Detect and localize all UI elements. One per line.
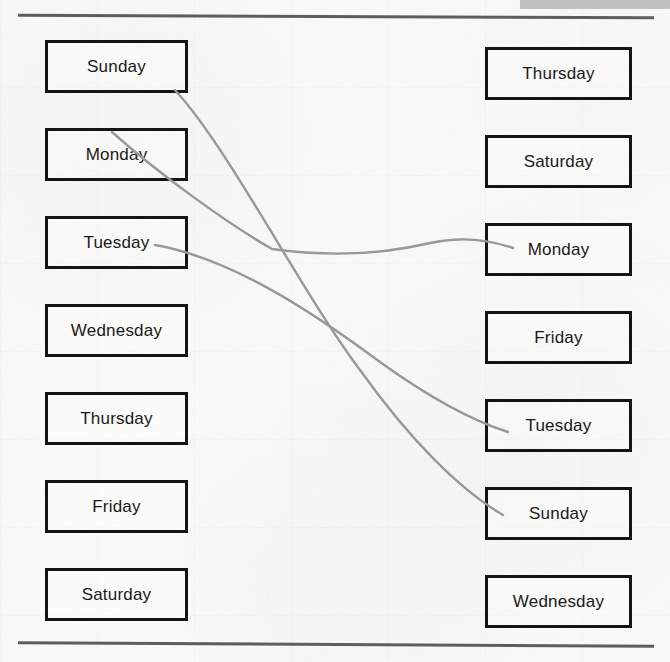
day-label: Saturday bbox=[524, 152, 594, 172]
day-box-left-4[interactable]: Thursday bbox=[45, 392, 188, 445]
day-label: Sunday bbox=[87, 57, 146, 77]
day-box-left-3[interactable]: Wednesday bbox=[45, 304, 188, 357]
day-box-right-6[interactable]: Wednesday bbox=[485, 575, 632, 628]
day-box-left-1[interactable]: Monday bbox=[45, 128, 188, 181]
day-label: Friday bbox=[534, 328, 582, 348]
ordered-days-column: Sunday Monday Tuesday Wednesday Thursday… bbox=[45, 0, 245, 662]
day-box-right-1[interactable]: Saturday bbox=[485, 135, 632, 188]
day-box-left-5[interactable]: Friday bbox=[45, 480, 188, 533]
day-box-left-2[interactable]: Tuesday bbox=[45, 216, 188, 269]
day-label: Monday bbox=[528, 240, 590, 260]
day-box-right-5[interactable]: Sunday bbox=[485, 487, 632, 540]
day-box-right-2[interactable]: Monday bbox=[485, 223, 632, 276]
day-label: Monday bbox=[86, 145, 148, 165]
day-box-right-4[interactable]: Tuesday bbox=[485, 399, 632, 452]
day-label: Sunday bbox=[529, 504, 588, 524]
day-label: Saturday bbox=[82, 585, 152, 605]
shuffled-days-column: Thursday Saturday Monday Friday Tuesday … bbox=[485, 0, 670, 662]
day-label: Friday bbox=[92, 497, 140, 517]
day-label: Wednesday bbox=[71, 321, 162, 341]
day-box-left-6[interactable]: Saturday bbox=[45, 568, 188, 621]
day-label: Thursday bbox=[522, 64, 594, 84]
day-label: Wednesday bbox=[513, 592, 604, 612]
day-label: Tuesday bbox=[526, 416, 592, 436]
day-label: Thursday bbox=[80, 409, 152, 429]
day-box-right-0[interactable]: Thursday bbox=[485, 47, 632, 100]
day-label: Tuesday bbox=[84, 233, 150, 253]
day-box-left-0[interactable]: Sunday bbox=[45, 40, 188, 93]
day-box-right-3[interactable]: Friday bbox=[485, 311, 632, 364]
